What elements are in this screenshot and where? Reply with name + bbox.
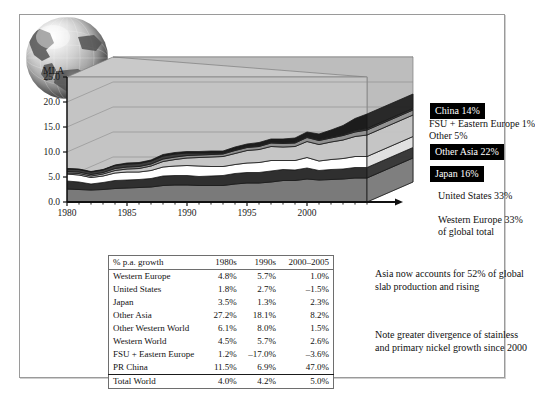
- table-header-region: % p.a. growth: [109, 256, 207, 270]
- table-cell-value: 4.0%: [207, 375, 241, 389]
- table-cell-region: FSU + Eastern Europe: [109, 348, 207, 361]
- y-axis-tick-label: 20.0: [43, 97, 60, 107]
- legend-item-global-total: of global total: [438, 226, 494, 238]
- table-cell-region: United States: [109, 283, 207, 296]
- table-cell-value: 5.7%: [241, 335, 280, 348]
- legend-item-china: China 14%: [430, 103, 485, 119]
- table-cell-value: 1.5%: [280, 322, 334, 335]
- table-cell-value: –17.0%: [241, 348, 280, 361]
- table-cell-region: PR China: [109, 361, 207, 375]
- y-axis-tick-label: 5.0: [48, 172, 60, 182]
- x-axis-tick-label: 2000: [298, 208, 317, 218]
- table-cell-region: Western Europe: [109, 270, 207, 284]
- table-cell-value: 1.0%: [280, 270, 334, 284]
- table-cell-value: 47.0%: [280, 361, 334, 375]
- table-header-2000-2005: 2000–2005: [280, 256, 334, 270]
- table-cell-value: 8.0%: [241, 322, 280, 335]
- table-cell-value: 4.8%: [207, 270, 241, 284]
- legend-item-fsu-eastern-europe: FSU + Eastern Europe 1%: [429, 118, 535, 130]
- table-cell-value: 1.8%: [207, 283, 241, 296]
- table-header-1980s: 1980s: [207, 256, 241, 270]
- legend-item-united-states: United States 33%: [438, 190, 512, 202]
- table-cell-region: Other Western World: [109, 322, 207, 335]
- table-cell-value: 4.5%: [207, 335, 241, 348]
- table-cell-value: 6.1%: [207, 322, 241, 335]
- table-row: Western Europe4.8%5.7%1.0%: [109, 270, 334, 284]
- growth-table: % p.a. growth 1980s 1990s 2000–2005 West…: [108, 255, 334, 389]
- table-row: FSU + Eastern Europe1.2%–17.0%–3.6%: [109, 348, 334, 361]
- table-cell-value: 2.3%: [280, 296, 334, 309]
- figure-frame: 25.020.015.010.05.00.0 19801985199019952…: [19, 14, 505, 378]
- table-cell-value: –1.5%: [280, 283, 334, 296]
- y-axis-tick-label: 15.0: [43, 122, 60, 132]
- y-axis-unit-label: MLA: [43, 66, 64, 76]
- table-cell-value: 2.7%: [241, 283, 280, 296]
- table-cell-value: 18.1%: [241, 309, 280, 322]
- table-cell-value: 6.9%: [241, 361, 280, 375]
- table-cell-value: 11.5%: [207, 361, 241, 375]
- table-cell-value: 2.6%: [280, 335, 334, 348]
- table-cell-region: Other Asia: [109, 309, 207, 322]
- table-cell-value: 1.2%: [207, 348, 241, 361]
- x-axis-tick-label: 1995: [238, 208, 257, 218]
- table-row: Other Western World6.1%8.0%1.5%: [109, 322, 334, 335]
- note-asia-share: Asia now accounts for 52% of global slab…: [375, 267, 535, 293]
- table-cell-region: Japan: [109, 296, 207, 309]
- table-cell-value: 3.5%: [207, 296, 241, 309]
- table-cell-region: Western World: [109, 335, 207, 348]
- x-axis-tick-label: 1980: [58, 208, 77, 218]
- table-cell-value: 5.7%: [241, 270, 280, 284]
- x-axis: 19801985199019952000: [58, 199, 404, 218]
- x-axis-tick-label: 1990: [178, 208, 197, 218]
- y-axis-tick-label: 0.0: [48, 197, 60, 207]
- table-cell-value: 27.2%: [207, 309, 241, 322]
- x-axis-tick-label: 1985: [118, 208, 137, 218]
- y-axis-tick-label: 10.0: [43, 147, 60, 157]
- legend-item-other-asia: Other Asia 22%: [430, 144, 504, 160]
- table-row: Japan3.5%1.3%2.3%: [109, 296, 334, 309]
- table-cell-value: 4.2%: [241, 375, 280, 389]
- note-nickel-divergence: Note greater divergence of stainless and…: [375, 328, 535, 354]
- table-row: Western World4.5%5.7%2.6%: [109, 335, 334, 348]
- table-cell-value: –3.6%: [280, 348, 334, 361]
- table-cell-value: 5.0%: [280, 375, 334, 389]
- y-axis: 25.020.015.010.05.00.0: [43, 72, 67, 207]
- legend-item-japan: Japan 16%: [430, 166, 484, 182]
- legend-item-western-europe: Western Europe 33%: [438, 214, 523, 226]
- table-row: Other Asia27.2%18.1%8.2%: [109, 309, 334, 322]
- table-header-row: % p.a. growth 1980s 1990s 2000–2005: [109, 256, 334, 270]
- table-total-row: Total World4.0%4.2%5.0%: [109, 375, 334, 389]
- table-cell-value: 8.2%: [280, 309, 334, 322]
- table-row: United States1.8%2.7%–1.5%: [109, 283, 334, 296]
- table-cell-region: Total World: [109, 375, 207, 389]
- table-row: PR China11.5%6.9%47.0%: [109, 361, 334, 375]
- table-cell-value: 1.3%: [241, 296, 280, 309]
- legend-item-other: Other 5%: [429, 130, 468, 142]
- table-header-1990s: 1990s: [241, 256, 280, 270]
